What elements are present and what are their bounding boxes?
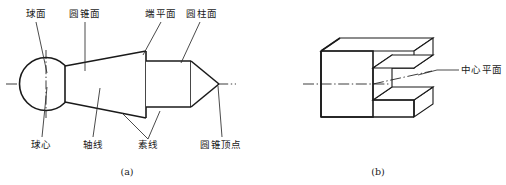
leader-generatrix-right [148,111,160,139]
label-spherical-surface: 球面 [26,8,47,19]
drawing-canvas: 球面 圆锥面 端平面 圆柱面 球心 轴线 素线 圆锥顶点 (a) [0,0,506,185]
leader-center-plane [418,70,459,75]
label-sphere-center: 球心 [31,139,52,150]
leader-cylindrical-surface [181,22,200,63]
caption-figure-a: (a) [120,166,133,177]
technical-drawing-figure: 球面 圆锥面 端平面 圆柱面 球心 轴线 素线 圆锥顶点 (a) [0,0,506,185]
label-conical-surface: 圆锥面 [69,8,100,19]
caption-figure-b: (b) [371,166,385,177]
figure-a-group: 球面 圆锥面 端平面 圆柱面 球心 轴线 素线 圆锥顶点 (a) [6,8,242,177]
label-axis-line: 轴线 [83,139,104,150]
leader-end-flat-surface [143,22,161,55]
cylinder-fill [146,61,191,107]
label-cylindrical-surface: 圆柱面 [186,8,217,19]
figure-b-group: 中心平面 (b) [303,38,503,177]
label-end-flat-surface: 端平面 [145,8,176,19]
label-center-plane: 中心平面 [461,64,503,75]
tip-cone-fill [191,61,219,107]
cone-frustum-fill [65,51,146,118]
label-generatrix: 素线 [138,139,159,150]
label-cone-apex: 圆锥顶点 [200,139,242,150]
leader-cone-apex [218,86,222,137]
